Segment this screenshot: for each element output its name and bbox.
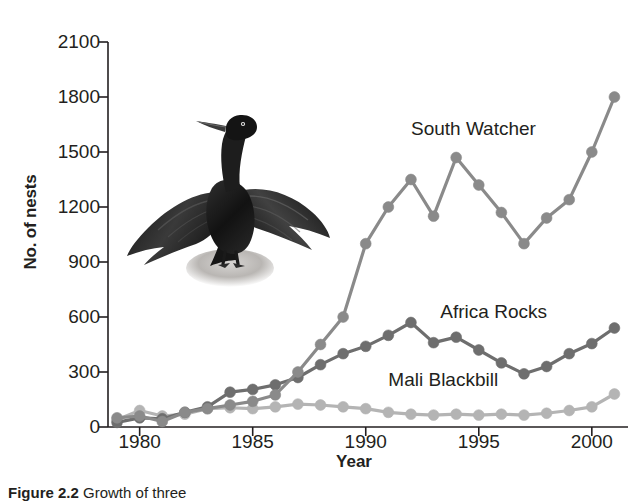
data-point [496, 357, 507, 368]
data-point [451, 152, 462, 163]
data-point [473, 180, 484, 191]
data-point [383, 202, 394, 213]
data-point [338, 312, 349, 323]
data-point [338, 348, 349, 359]
data-point [202, 403, 213, 414]
data-point [247, 384, 258, 395]
data-point [519, 410, 530, 421]
data-point [451, 409, 462, 420]
data-point [293, 367, 304, 378]
figure-caption: Figure 2.2 Growth of three [8, 484, 628, 501]
data-point [428, 211, 439, 222]
figure-caption-label: Figure 2.2 [8, 484, 79, 501]
data-point [383, 330, 394, 341]
data-point [586, 338, 597, 349]
data-point [519, 368, 530, 379]
data-point [586, 401, 597, 412]
data-point [586, 147, 597, 158]
data-point [496, 207, 507, 218]
data-point [496, 409, 507, 420]
data-point [451, 332, 462, 343]
data-point [293, 399, 304, 410]
data-point [315, 339, 326, 350]
data-point [564, 405, 575, 416]
data-point [564, 194, 575, 205]
data-point [315, 359, 326, 370]
data-point [270, 379, 281, 390]
data-point [473, 345, 484, 356]
data-point [428, 337, 439, 348]
data-point [360, 403, 371, 414]
data-point [338, 401, 349, 412]
data-point [564, 348, 575, 359]
data-point [541, 408, 552, 419]
data-point [406, 317, 417, 328]
series-south-watcher [112, 92, 620, 427]
data-point [406, 174, 417, 185]
data-point [473, 410, 484, 421]
x-axis-title: Year [0, 452, 638, 472]
data-point [519, 238, 530, 249]
series-mali-blackbill [112, 389, 620, 425]
series-label-mali-blackbill: Mali Blackbill [388, 370, 498, 389]
data-point [225, 387, 236, 398]
data-point [609, 323, 620, 334]
data-point [360, 341, 371, 352]
data-point [134, 411, 145, 422]
series-label-africa-rocks: Africa Rocks [440, 302, 547, 321]
data-point [541, 361, 552, 372]
data-point [406, 409, 417, 420]
data-point [179, 407, 190, 418]
data-point [112, 412, 123, 423]
data-point [315, 400, 326, 411]
data-point [247, 396, 258, 407]
series-label-south-watcher: South Watcher [411, 119, 536, 138]
data-point [270, 401, 281, 412]
figure-caption-body: Growth of three [79, 484, 187, 501]
data-point [609, 389, 620, 400]
data-point [157, 416, 168, 427]
data-point [383, 407, 394, 418]
data-point [225, 400, 236, 411]
data-point [270, 390, 281, 401]
data-point [428, 410, 439, 421]
data-point [360, 238, 371, 249]
data-point [609, 92, 620, 103]
data-point [541, 213, 552, 224]
